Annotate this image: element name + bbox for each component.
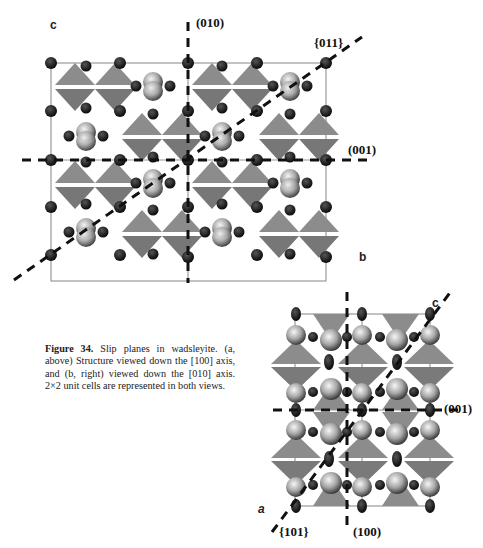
plane-label-010: (010) (196, 15, 224, 31)
axis-label-a-b: a (258, 502, 265, 516)
axis-label-c-a: c (50, 18, 57, 32)
plane-label-001-b: (001) (444, 401, 472, 417)
panel-b-structure: c a (001) {101} (100) (0, 280, 483, 548)
panel-a-structure: c b (010) {011} (001) (0, 0, 483, 300)
panel-b-drawing (0, 280, 483, 548)
plane-label-101: {101} (279, 524, 309, 540)
axis-label-c-b: c (432, 296, 439, 310)
panel-a-drawing (0, 0, 483, 300)
plane-label-100: (100) (353, 524, 381, 540)
plane-label-011: {011} (314, 35, 343, 51)
plane-label-001-a: (001) (348, 142, 376, 158)
axis-label-b-a: b (359, 250, 366, 264)
